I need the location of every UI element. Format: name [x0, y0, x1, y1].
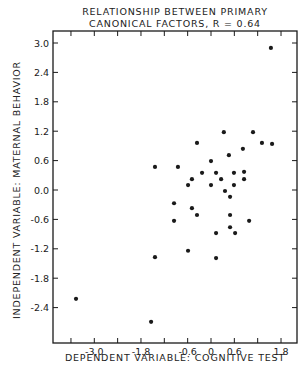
y-tick-label: 1.2	[34, 126, 49, 137]
data-point	[186, 249, 190, 253]
data-point	[74, 297, 78, 301]
data-point	[195, 141, 199, 145]
data-point	[251, 130, 255, 134]
data-point	[260, 141, 264, 145]
data-point	[190, 177, 194, 181]
y-tick-label: -1.8	[30, 273, 49, 284]
data-point	[190, 206, 194, 210]
data-point	[153, 255, 157, 259]
data-point	[209, 159, 213, 163]
y-tick-label: -1.2	[30, 243, 49, 254]
data-point	[242, 170, 246, 174]
y-axis-label: INDEPENDENT VARIABLE: MATERNAL BEHAVIOR	[11, 61, 22, 319]
plot-frame	[53, 31, 297, 343]
data-point	[228, 213, 232, 217]
data-point	[247, 219, 251, 223]
data-point	[233, 231, 237, 235]
data-point	[214, 256, 218, 260]
data-point	[186, 183, 190, 187]
data-point	[269, 46, 273, 50]
y-tick-label: -0.6	[30, 214, 49, 225]
data-point	[219, 177, 223, 181]
y-tick-label: 3.0	[34, 38, 49, 49]
data-point	[232, 183, 236, 187]
y-tick-label: 2.4	[34, 67, 49, 78]
y-tick-label: 1.8	[34, 96, 49, 107]
data-point	[270, 142, 274, 146]
data-point	[227, 153, 231, 157]
data-point	[153, 165, 157, 169]
data-point	[214, 171, 218, 175]
x-axis-label: DEPENDENT VARIABLE: COGNITIVE TEST	[53, 352, 297, 363]
y-tick-label: 0.0	[34, 185, 49, 196]
data-point	[172, 219, 176, 223]
data-point	[241, 147, 245, 151]
data-point	[176, 165, 180, 169]
data-point	[228, 225, 232, 229]
data-point	[228, 195, 232, 199]
data-point	[242, 177, 246, 181]
data-point	[232, 171, 236, 175]
data-point	[200, 171, 204, 175]
data-point	[222, 130, 226, 134]
y-tick-label: 0.6	[34, 155, 49, 166]
data-point	[149, 320, 153, 324]
data-point	[214, 231, 218, 235]
y-tick-label: -2.4	[30, 302, 49, 313]
data-point	[195, 213, 199, 217]
data-point	[172, 201, 176, 205]
data-point	[223, 189, 227, 193]
scatter-plot: -3.0-1.8-0.600.61.83.02.41.81.20.60.0-0.…	[0, 0, 306, 375]
data-point	[209, 183, 213, 187]
